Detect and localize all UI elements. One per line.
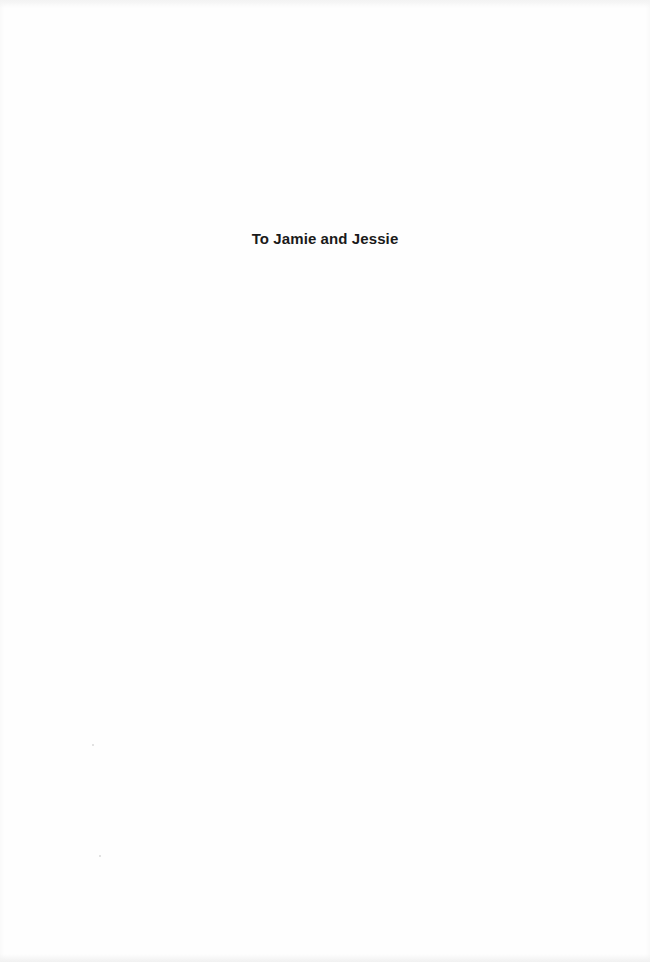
scan-speck <box>99 855 101 857</box>
book-page: To Jamie and Jessie <box>0 0 650 962</box>
page-edge-bottom <box>0 954 650 962</box>
scan-speck <box>92 744 94 746</box>
dedication-text: To Jamie and Jessie <box>0 229 650 249</box>
page-edge-top <box>0 0 650 8</box>
